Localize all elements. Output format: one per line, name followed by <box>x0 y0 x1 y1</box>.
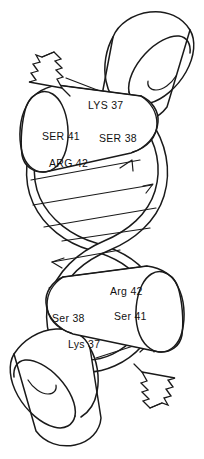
molecular-diagram-svg <box>0 0 204 459</box>
residue-label-ser38-upper: SER 38 <box>99 133 137 144</box>
zigzag-lower-right <box>141 372 175 408</box>
residue-label-lys37-upper: LYS 37 <box>88 100 123 111</box>
residue-label-ser41-upper: SER 41 <box>42 131 80 142</box>
residue-label-arg42-upper: ARG 42 <box>49 158 88 169</box>
figure-canvas: LYS 37 SER 41 SER 38 ARG 42 Arg 42 Ser 3… <box>0 0 204 459</box>
residue-label-ser41-lower: Ser 41 <box>114 311 147 322</box>
zigzag-upper-left <box>29 52 63 88</box>
residue-label-lys37-lower: Lys 37 <box>68 339 100 350</box>
residue-label-ser38-lower: Ser 38 <box>52 313 85 324</box>
residue-label-arg42-lower: Arg 42 <box>110 286 143 297</box>
